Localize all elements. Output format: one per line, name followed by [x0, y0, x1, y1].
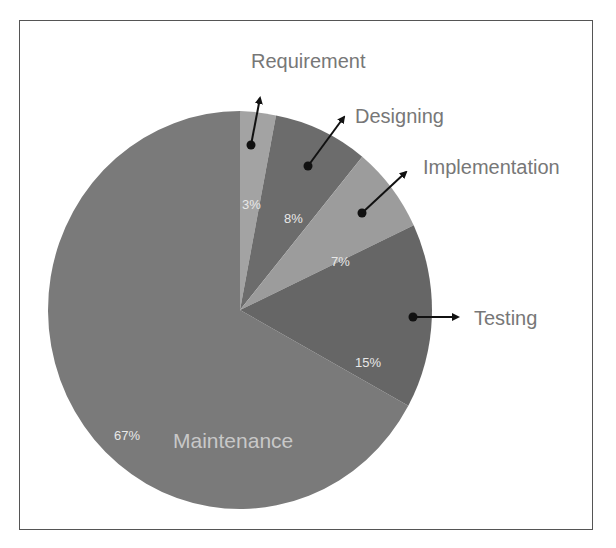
category-label-designing: Designing: [355, 105, 444, 127]
pie-chart: 3% 8% 7% 15% 67% Requirement Designing I…: [0, 0, 616, 548]
percent-label-designing: 8%: [284, 211, 303, 226]
percent-label-implementation: 7%: [331, 254, 350, 269]
category-label-maintenance: Maintenance: [173, 429, 293, 452]
callout-arrow-testing: [409, 313, 459, 322]
category-label-testing: Testing: [474, 307, 537, 329]
percent-label-maintenance: 67%: [114, 428, 140, 443]
percent-label-testing: 15%: [355, 355, 381, 370]
category-label-requirement: Requirement: [251, 50, 366, 72]
percent-label-requirement: 3%: [242, 197, 261, 212]
category-label-implementation: Implementation: [423, 156, 560, 178]
